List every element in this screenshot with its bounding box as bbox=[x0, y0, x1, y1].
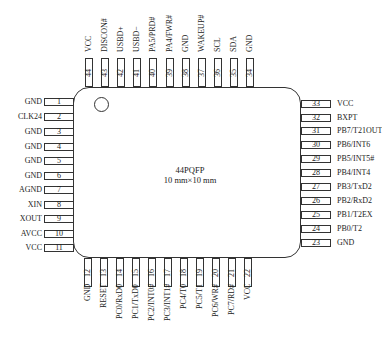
package-name: 44PQFP bbox=[150, 165, 230, 175]
pin-label-bottom: PC2/INT0# bbox=[148, 284, 156, 321]
pin-box-top: 42 bbox=[117, 58, 125, 87]
pin-box-bottom: 17 bbox=[164, 258, 172, 287]
pin-label-top: GND bbox=[246, 35, 254, 52]
pin-label-left: GND bbox=[0, 172, 42, 180]
pin-label-top: USBD+ bbox=[117, 26, 125, 52]
pin-number: 40 bbox=[149, 69, 157, 77]
pin-box-right: 25 bbox=[301, 211, 331, 219]
pin-box-bottom: 12 bbox=[84, 258, 92, 287]
pin-label-left: VCC bbox=[0, 244, 42, 252]
pin-label-bottom: RESET bbox=[100, 284, 108, 308]
pin-label-top: SCL bbox=[214, 37, 222, 52]
pin-box-top: 41 bbox=[133, 58, 141, 87]
pin-number: 42 bbox=[117, 69, 125, 77]
pin-box-right: 24 bbox=[301, 225, 331, 233]
pin-label-left: XOUT bbox=[0, 215, 42, 223]
pin-number: 13 bbox=[100, 269, 108, 277]
pin-box-bottom: 15 bbox=[132, 258, 140, 287]
pin-box-right: 29 bbox=[301, 155, 331, 163]
pin-box-bottom: 18 bbox=[180, 258, 188, 287]
pin-label-right: PB6/INT6 bbox=[337, 141, 370, 149]
pin-label-right: PB4/INT4 bbox=[337, 169, 370, 177]
pin-number: 34 bbox=[246, 69, 254, 77]
pin-label-left: GND bbox=[0, 128, 42, 136]
pin-number: 19 bbox=[196, 269, 204, 277]
pin-number: 18 bbox=[180, 269, 188, 277]
pin-number: 16 bbox=[148, 269, 156, 277]
pin-box-left: 6 bbox=[44, 172, 74, 180]
pin-label-top: PA5/PRD# bbox=[149, 17, 157, 52]
pin-label-right: PB0/T2 bbox=[337, 225, 362, 233]
pin-label-bottom: GND bbox=[84, 284, 92, 301]
pin-label-bottom: PC0/RxD0 bbox=[116, 284, 124, 319]
pin-label-right: GND bbox=[337, 239, 354, 247]
pin-box-left: 1 bbox=[44, 98, 74, 106]
pin-box-bottom: 19 bbox=[196, 258, 204, 287]
pin-box-top: 44 bbox=[85, 58, 93, 87]
pin-box-right: 32 bbox=[301, 114, 331, 122]
pin-label-bottom: PC1/TxD0 bbox=[132, 284, 140, 319]
pin-label-right: PB7/T21OUT bbox=[337, 127, 382, 135]
pin-box-bottom: 20 bbox=[212, 258, 220, 287]
package-size: 10 mm×10 mm bbox=[150, 175, 230, 185]
pin-label-top: SDA bbox=[230, 36, 238, 52]
pin-number: 21 bbox=[228, 269, 236, 277]
pin-number: 39 bbox=[166, 69, 174, 77]
pin-box-left: 11 bbox=[44, 244, 74, 252]
pin-number: 43 bbox=[101, 69, 109, 77]
pin-label-left: GND bbox=[0, 143, 42, 151]
pin-number: 22 bbox=[244, 269, 252, 277]
pin-box-top: 37 bbox=[198, 58, 206, 87]
pin-label-top: GND bbox=[182, 35, 190, 52]
pin-box-right: 30 bbox=[301, 141, 331, 149]
pin-number: 35 bbox=[230, 69, 238, 77]
pin-box-right: 31 bbox=[301, 127, 331, 135]
pin-label-right: PB5/INT5# bbox=[337, 155, 374, 163]
pin-number: 37 bbox=[198, 69, 206, 77]
pin-label-left: AGND bbox=[0, 186, 42, 194]
pin-label-bottom: PC6/WR# bbox=[212, 284, 220, 317]
pin-label-top: USBD− bbox=[133, 26, 141, 52]
pin-label-left: GND bbox=[0, 98, 42, 106]
pin-box-right: 33 bbox=[301, 100, 331, 108]
pin-label-top: DISCON# bbox=[101, 18, 109, 52]
pin-number: 12 bbox=[84, 269, 92, 277]
pin-box-right: 23 bbox=[301, 239, 331, 247]
pin-label-bottom: PC4/T0 bbox=[180, 284, 188, 309]
pin-box-right: 26 bbox=[301, 197, 331, 205]
pin-box-top: 38 bbox=[182, 58, 190, 87]
pin1-indicator-circle-icon bbox=[94, 97, 109, 112]
pin-box-left: 5 bbox=[44, 157, 74, 165]
pin-box-top: 40 bbox=[149, 58, 157, 87]
pin-box-left: 3 bbox=[44, 128, 74, 136]
pin-label-right: PB1/T2EX bbox=[337, 211, 373, 219]
pin-box-left: 8 bbox=[44, 201, 74, 209]
pin-number: 44 bbox=[85, 69, 93, 77]
pin-box-top: 43 bbox=[101, 58, 109, 87]
pin-label-right: BXPT bbox=[337, 114, 357, 122]
package-label: 44PQFP 10 mm×10 mm bbox=[150, 165, 230, 185]
pin-label-right: PB2/RxD2 bbox=[337, 197, 372, 205]
pin-label-top: WAKEUP# bbox=[198, 15, 206, 52]
pin-box-left: 7 bbox=[44, 186, 74, 194]
pin-number: 20 bbox=[212, 269, 220, 277]
pin-box-left: 4 bbox=[44, 143, 74, 151]
pin-label-left: GND bbox=[0, 157, 42, 165]
pin-label-bottom: PC7/RD# bbox=[228, 284, 236, 315]
pin-box-left: 10 bbox=[44, 230, 74, 238]
pin-box-left: 2 bbox=[44, 113, 74, 121]
pin-label-right: PB3/TxD2 bbox=[337, 183, 372, 191]
pin-label-left: XIN bbox=[0, 201, 42, 209]
pin-box-bottom: 14 bbox=[116, 258, 124, 287]
pin-label-left: AVCC bbox=[0, 230, 42, 238]
pin-box-bottom: 16 bbox=[148, 258, 156, 287]
pin-label-bottom: PC5/T1 bbox=[196, 284, 204, 309]
pin-number: 36 bbox=[214, 69, 222, 77]
pin-label-top: PA4/FWR# bbox=[166, 15, 174, 52]
pin-box-right: 27 bbox=[301, 183, 331, 191]
pin-label-top: VCC bbox=[85, 36, 93, 52]
pin-number: 17 bbox=[164, 269, 172, 277]
pin-box-top: 36 bbox=[214, 58, 222, 87]
pin-label-right: VCC bbox=[337, 100, 353, 108]
pin-box-left: 9 bbox=[44, 215, 74, 223]
